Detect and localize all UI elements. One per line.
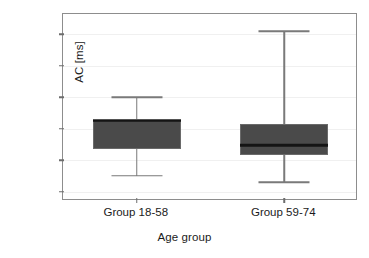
- median-line-1: [240, 144, 328, 147]
- y-tick-mark-0: [59, 191, 64, 193]
- y-tick-mark-2: [59, 128, 64, 130]
- box-0: [93, 119, 181, 149]
- y-tick-mark-3: [59, 97, 64, 99]
- whisker-stem-lower-0: [136, 149, 138, 176]
- x-tick-label-1: Group 59-74: [208, 206, 358, 218]
- x-axis-title: Age group: [0, 231, 369, 243]
- gridline-3: [63, 97, 356, 98]
- gridline-1: [63, 160, 356, 161]
- y-tick-mark-1: [59, 159, 64, 161]
- whisker-stem-upper-1: [284, 31, 286, 124]
- gridline-5: [63, 34, 356, 35]
- boxplot-figure: 0 0,1 0,2 0,3 0,4 0,5 AC [ms] Group 18-5…: [0, 0, 369, 258]
- gridline-0: [63, 192, 356, 193]
- x-tick-mark-1: [284, 198, 286, 203]
- y-axis-title: AC [ms]: [73, 10, 85, 114]
- median-line-0: [93, 120, 181, 123]
- whisker-stem-lower-1: [284, 155, 286, 182]
- y-tick-mark-4: [59, 65, 64, 67]
- whisker-stem-upper-0: [136, 97, 138, 119]
- x-tick-mark-0: [136, 198, 138, 203]
- y-tick-mark-5: [59, 34, 64, 36]
- whisker-cap-lower-1: [259, 181, 310, 183]
- whisker-cap-upper-1: [259, 31, 310, 33]
- gridline-4: [63, 66, 356, 67]
- plot-area: 0 0,1 0,2 0,3 0,4 0,5 AC [ms]: [62, 13, 357, 200]
- box-1: [240, 124, 328, 155]
- x-tick-label-0: Group 18-58: [61, 206, 211, 218]
- whisker-cap-lower-0: [111, 175, 162, 177]
- whisker-cap-upper-0: [111, 97, 162, 99]
